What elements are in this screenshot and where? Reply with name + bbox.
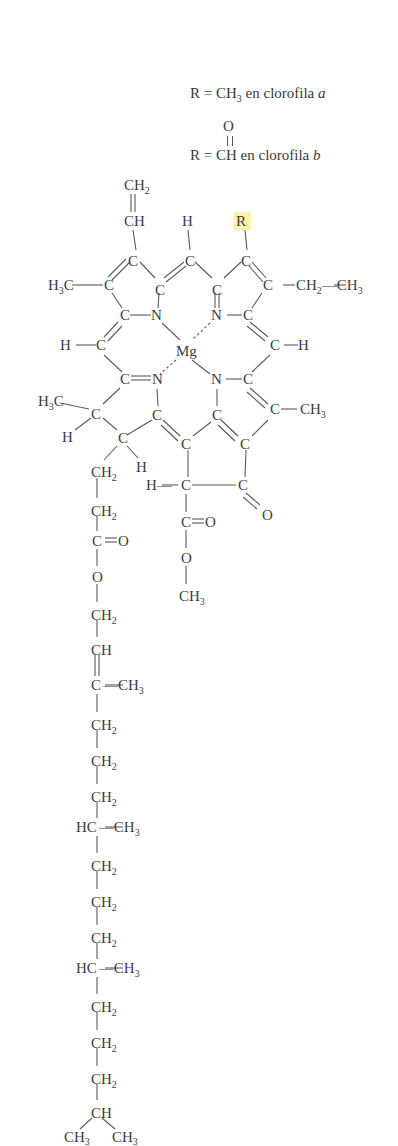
- atom-n3: N: [152, 371, 163, 387]
- chain-ch2-9: CH2: [91, 894, 117, 913]
- atom-o-ketone: O: [262, 507, 273, 523]
- atom-vinyl-ch: CH: [124, 213, 145, 229]
- atom-h-c14: H: [62, 429, 73, 445]
- chain-ch-15: CH: [91, 1105, 112, 1121]
- atom-o-ester-left: O: [118, 533, 129, 549]
- atom-c10: C: [96, 337, 106, 353]
- atom-h-left: H: [60, 337, 71, 353]
- atom-r-group: R: [236, 213, 246, 229]
- chain-ch2-4: CH2: [91, 717, 117, 736]
- chain-ch2-14: CH2: [91, 1071, 117, 1090]
- atom-h-top: H: [182, 213, 193, 229]
- chain-c-3: C—CH3: [91, 677, 144, 696]
- atom-o-ester-right: O: [205, 514, 216, 530]
- atom-c6: C: [212, 282, 222, 298]
- atom-c20: C: [240, 436, 250, 452]
- atom-h3c-left: H3C: [48, 277, 74, 296]
- bonds: [60, 194, 346, 1129]
- atom-c4: C: [104, 277, 114, 293]
- atom-c1: C: [128, 253, 138, 269]
- atom-n4: N: [211, 371, 222, 387]
- atom-c8: C: [120, 307, 130, 323]
- chain-ch2-12: CH2: [91, 999, 117, 1018]
- atom-c18: C: [118, 430, 128, 446]
- atom-o-chain: O: [92, 569, 103, 585]
- atom-h-c21: H—: [146, 477, 173, 493]
- atom-n1: N: [151, 307, 162, 323]
- chain-ch2-10: CH2: [91, 930, 117, 949]
- chain-ch2-5: CH2: [91, 753, 117, 772]
- chain-terminal-ch3-right: CH3: [112, 1129, 138, 1146]
- atom-c9: C: [243, 307, 253, 323]
- atom-c11: C: [270, 337, 280, 353]
- chain-ch2-6: CH2: [91, 789, 117, 808]
- atom-c3: C: [241, 253, 251, 269]
- chain-ch2-8: CH2: [91, 858, 117, 877]
- atom-h3c-mid: H3C: [38, 393, 64, 412]
- atom-c14: C: [91, 406, 101, 422]
- atom-ch3-methoxy: CH3: [179, 588, 205, 607]
- atom-c15: C: [152, 407, 162, 423]
- atom-labels: CH2 CH H R C C C H3C C C C C CH2—CH3 C N…: [38, 177, 363, 1146]
- atom-c21: C: [181, 477, 191, 493]
- atom-ethyl: CH2—CH3: [296, 277, 363, 296]
- atom-c-ester-right: C: [181, 514, 191, 530]
- chain-ch2-13: CH2: [91, 1035, 117, 1054]
- atom-c16: C: [212, 407, 222, 423]
- atom-c-ester-left: C: [92, 533, 102, 549]
- atom-ch2-b: CH2: [91, 503, 117, 522]
- atom-c2: C: [185, 253, 195, 269]
- atom-c19: C: [181, 436, 191, 452]
- atom-ch2-a: CH2: [91, 464, 117, 483]
- chain-ch-2: CH: [91, 642, 112, 658]
- atom-n2: N: [211, 307, 222, 323]
- chlorophyll-structure: CH2 CH H R C C C H3C C C C C CH2—CH3 C N…: [0, 0, 398, 1146]
- chain-terminal-ch3-left: CH3: [64, 1129, 90, 1146]
- chain-ch2-1: CH2: [91, 607, 117, 626]
- atom-h-c18: H: [136, 459, 147, 475]
- atom-c13: C: [243, 371, 253, 387]
- atom-o-methoxy: O: [181, 550, 192, 566]
- chain-hc-7: HC—CH3: [76, 819, 140, 838]
- atom-c22: C: [238, 477, 248, 493]
- atom-c5: C: [155, 282, 165, 298]
- atom-mg: Mg: [176, 343, 197, 359]
- atom-ch3-right: CH3: [300, 401, 326, 420]
- atom-vinyl-ch2: CH2: [124, 177, 150, 196]
- atom-c12: C: [120, 371, 130, 387]
- chain-hc-11: HC—CH3: [76, 960, 140, 979]
- atom-c7: C: [263, 277, 273, 293]
- atom-h-right: H: [298, 337, 309, 353]
- atom-c17: C: [270, 401, 280, 417]
